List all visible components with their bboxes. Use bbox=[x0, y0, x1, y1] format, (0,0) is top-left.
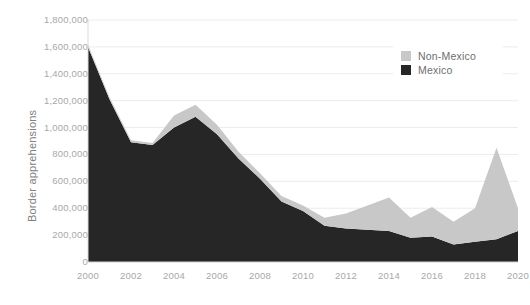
x-tick-label: 2020 bbox=[507, 270, 529, 281]
x-tick-label: 2018 bbox=[464, 270, 486, 281]
x-tick-label: 2016 bbox=[421, 270, 443, 281]
legend-swatch-non-mexico bbox=[401, 51, 411, 61]
x-tick-label: 2002 bbox=[120, 270, 142, 281]
legend-swatch-mexico bbox=[401, 65, 411, 75]
x-tick-label: 2004 bbox=[163, 270, 185, 281]
x-tick-label: 2014 bbox=[378, 270, 400, 281]
x-tick-label: 2012 bbox=[335, 270, 357, 281]
legend-item-mexico[interactable]: Mexico bbox=[401, 64, 495, 76]
x-tick-label: 2010 bbox=[292, 270, 314, 281]
x-tick-label: 2000 bbox=[77, 270, 99, 281]
legend-item-non-mexico[interactable]: Non-Mexico bbox=[401, 50, 495, 62]
chart-legend: Non-Mexico Mexico bbox=[393, 42, 503, 85]
legend-label-mexico: Mexico bbox=[418, 64, 452, 76]
x-tick-label: 2008 bbox=[249, 270, 271, 281]
x-tick-label: 2006 bbox=[206, 270, 228, 281]
stacked-area-chart: Border apprehensions 0200,000400,000600,… bbox=[0, 0, 530, 305]
legend-label-non-mexico: Non-Mexico bbox=[418, 50, 476, 62]
